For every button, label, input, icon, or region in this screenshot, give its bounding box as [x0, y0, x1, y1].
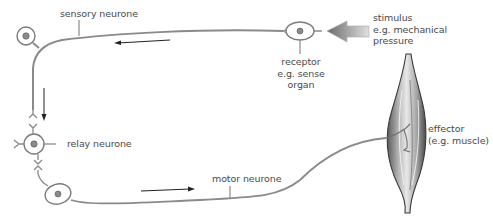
- receptor-label-line3: organ: [276, 79, 326, 91]
- synapse-sensory-relay: [29, 110, 37, 131]
- effector-label-line1: effector: [428, 123, 489, 135]
- reflex-arc-diagram: sensory neurone stimulus e.g. mechanical…: [0, 0, 493, 217]
- effector-muscle: [386, 54, 426, 213]
- receptor-label-line2: e.g. sense: [276, 68, 326, 80]
- receptor-cell: [283, 22, 322, 54]
- sensory-neurone: [33, 20, 283, 110]
- synapse-relay-motor: [34, 166, 48, 186]
- sensory-neurone-label: sensory neurone: [60, 8, 138, 20]
- stimulus-arrow: [327, 21, 369, 42]
- receptor-label: receptor e.g. sense organ: [276, 56, 326, 91]
- direction-arrow-down: [42, 88, 47, 121]
- effector-label-line2: (e.g. muscle): [428, 135, 489, 147]
- direction-arrow-sensory: [114, 40, 170, 45]
- motor-neurone-label: motor neurone: [212, 173, 282, 185]
- effector-label: effector (e.g. muscle): [428, 123, 489, 146]
- stimulus-label-line3: pressure: [373, 35, 447, 47]
- relay-neurone-label: relay neurone: [67, 138, 132, 150]
- relay-neurone: [14, 131, 56, 164]
- stimulus-label-line1: stimulus: [373, 12, 447, 24]
- receptor-label-line1: receptor: [276, 56, 326, 68]
- direction-arrow-motor: [141, 187, 195, 192]
- stimulus-label: stimulus e.g. mechanical pressure: [373, 12, 447, 47]
- sensory-cell-body: [17, 27, 35, 45]
- stimulus-label-line2: e.g. mechanical: [373, 24, 447, 36]
